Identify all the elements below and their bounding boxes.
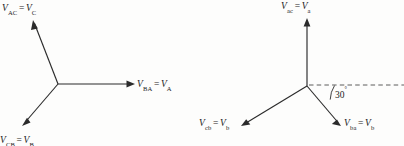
left-vcb-sub1: CB — [6, 141, 15, 146]
right-vector-vba-shaft — [307, 86, 337, 122]
right-vector-vac-label: Vac=Va — [281, 2, 311, 12]
left-vector-vba-arrowhead — [127, 81, 136, 88]
left-vector-vba-label: VBA=VA — [137, 80, 172, 90]
left-vector-vac-shaft — [35, 24, 59, 85]
right-vcb-sub2: b — [226, 124, 230, 131]
left-vector-vac — [31, 20, 58, 84]
left-vector-vcb-label: VCB=VB — [0, 136, 34, 146]
right-angle-unit: ° — [345, 85, 347, 92]
left-vba-sub2: A — [167, 85, 172, 92]
left-vcb-sub2: B — [29, 141, 34, 146]
right-vector-vcb — [241, 86, 307, 126]
right-angle-value: 30 — [335, 90, 345, 100]
left-vector-vac-arrowhead — [31, 20, 38, 30]
left-vac-sub1: AC — [8, 9, 18, 16]
right-vector-vcb-arrowhead — [241, 119, 250, 126]
right-vector-vba-arrowhead — [332, 120, 341, 127]
left-vector-vcb — [22, 84, 58, 126]
right-vector-vac-arrowhead — [304, 18, 311, 27]
right-vector-vba-label: Vba=Vb — [344, 119, 374, 129]
left-vector-vba — [58, 81, 135, 88]
left-vba-sub1: BA — [143, 85, 153, 92]
right-vac-sub2: a — [308, 7, 311, 14]
left-vector-vcb-shaft — [25, 84, 58, 122]
left-vector-vcb-arrowhead — [22, 118, 31, 126]
right-vector-vcb-shaft — [246, 86, 307, 123]
phasor-diagram-figure: VAC=VC VBA=VA VCB=VB Vac=Va Vcb=Vb Vba=V… — [0, 0, 404, 146]
right-vac-sub1: ac — [287, 7, 293, 14]
left-vector-vac-label: VAC=VC — [2, 4, 36, 14]
right-angle-label-30deg: 30° — [335, 90, 347, 100]
left-diagram-group — [22, 20, 135, 126]
right-vcb-sub1: cb — [205, 124, 212, 131]
right-diagram-group — [241, 18, 404, 126]
right-vector-vcb-label: Vcb=Vb — [199, 119, 229, 129]
right-angle-arc-30deg — [330, 86, 334, 100]
right-vba-sub1: ba — [350, 124, 357, 131]
right-vba-sub2: b — [371, 124, 375, 131]
left-vac-sub2: C — [32, 9, 37, 16]
right-vector-vac — [304, 18, 311, 86]
